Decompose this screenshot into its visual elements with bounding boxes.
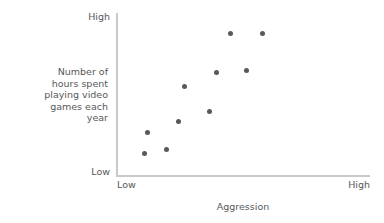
y-axis-title-line: Number of xyxy=(22,66,108,78)
y-axis-low-label: Low xyxy=(91,166,110,177)
data-point xyxy=(164,147,169,152)
y-axis-title: Number of hours spent playing video game… xyxy=(22,66,108,124)
data-point xyxy=(228,31,233,36)
data-point xyxy=(142,151,147,156)
data-point xyxy=(145,130,150,135)
plot-area xyxy=(118,13,370,175)
data-point xyxy=(207,109,212,114)
x-axis-high-label: High xyxy=(348,179,370,190)
scatter-plot-figure: High Low Low High Number of hours spent … xyxy=(0,0,384,223)
data-point xyxy=(214,70,219,75)
x-axis-low-label: Low xyxy=(117,179,136,190)
y-axis-title-line: playing video xyxy=(22,89,108,101)
data-point xyxy=(260,31,265,36)
x-axis-line xyxy=(116,175,370,177)
y-axis-title-line: games each xyxy=(22,101,108,113)
data-point xyxy=(176,119,181,124)
x-axis-title: Aggression xyxy=(116,201,370,212)
data-point xyxy=(182,84,187,89)
data-point xyxy=(244,68,249,73)
y-axis-high-label: High xyxy=(88,11,110,22)
y-axis-title-line: year xyxy=(22,112,108,124)
y-axis-title-line: hours spent xyxy=(22,78,108,90)
